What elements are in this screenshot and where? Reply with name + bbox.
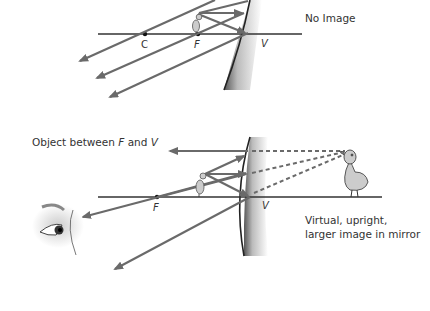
- label-v-bottom: V: [262, 200, 270, 211]
- result-caption-line1: Virtual, upright,: [305, 214, 387, 226]
- label-c-top: C: [141, 39, 148, 50]
- no-image-caption: No Image: [305, 12, 356, 24]
- top-diagram: C F V No Image: [80, 0, 356, 97]
- duck-virtual-image: [339, 150, 368, 197]
- object-between-caption: Object between F and V: [32, 136, 159, 148]
- label-f-top: F: [194, 39, 200, 50]
- observer-eye-icon: [32, 204, 84, 255]
- label-v-top: V: [261, 38, 269, 49]
- duck-object-top: [193, 14, 202, 34]
- bottom-diagram: Object between F and V: [32, 136, 421, 269]
- result-caption-line2: larger image in mirror: [305, 228, 421, 240]
- mirror-ray-diagram: C F V No Image Object between F and V: [0, 0, 430, 311]
- label-f-bottom: F: [153, 202, 159, 213]
